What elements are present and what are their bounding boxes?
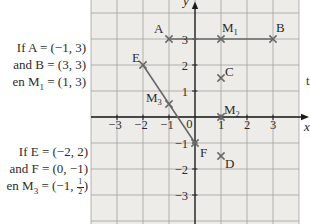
- y-tick-label: 3: [182, 33, 188, 47]
- x-tick-label: 1: [218, 118, 224, 132]
- y-tick-label: −2: [175, 163, 188, 177]
- y-tick-label: 2: [182, 59, 188, 73]
- textbook-figure: { "colors": { "page_bg": "#ffffff", "gri…: [0, 0, 310, 224]
- coordinate-plane: −3−2−1123321−1−2−30AM1BECM3M2FDyxt: [0, 0, 310, 224]
- y-tick-label: −3: [175, 189, 188, 203]
- x-tick-label: 2: [244, 118, 250, 132]
- x-tick-label: −2: [134, 118, 147, 132]
- x-tick-label: 3: [270, 118, 276, 132]
- x-axis-label: x: [303, 119, 310, 134]
- x-tick-label: −3: [108, 118, 121, 132]
- point-label-B: B: [276, 20, 285, 35]
- point-label-F: F: [200, 145, 207, 160]
- x-tick-label: −1: [160, 118, 173, 132]
- origin-label: 0: [186, 117, 192, 131]
- y-axis-label: y: [181, 0, 189, 8]
- y-tick-label: 1: [182, 85, 188, 99]
- point-label-E: E: [132, 50, 140, 65]
- y-tick-label: −1: [175, 137, 188, 151]
- point-label-D: D: [225, 156, 234, 171]
- right-edge-text-fragment: t: [306, 74, 310, 88]
- point-label-C: C: [225, 64, 234, 79]
- point-label-A: A: [154, 21, 164, 36]
